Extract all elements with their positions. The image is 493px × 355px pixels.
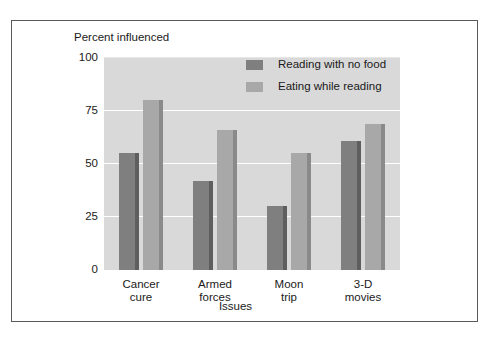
legend-swatch: [246, 60, 267, 73]
bar: [291, 153, 311, 270]
bar-side: [135, 153, 139, 270]
y-axis-tick-label: 25: [58, 210, 98, 222]
bar-side: [159, 100, 163, 270]
figure: Percent influenced 0255075100 Cancercure…: [0, 0, 493, 355]
bar-face: [143, 100, 159, 270]
bar: [217, 130, 237, 270]
bar-side: [233, 130, 237, 270]
x-axis-category-label-line: 3-D: [318, 278, 408, 291]
bar-side: [209, 181, 213, 270]
y-axis-tick-label: 100: [58, 51, 98, 63]
legend: Reading with no foodEating while reading: [246, 58, 396, 102]
bar: [365, 124, 385, 270]
bar: [267, 206, 287, 270]
bar-side: [357, 141, 361, 270]
y-axis-tick-label: 0: [58, 263, 98, 275]
bar-side: [381, 124, 385, 270]
legend-item: Reading with no food: [246, 58, 396, 77]
y-axis-title: Percent influenced: [74, 31, 169, 43]
bar-side: [283, 206, 287, 270]
x-axis-title-text: Issues: [219, 300, 252, 312]
bar: [193, 181, 213, 270]
legend-item: Eating while reading: [246, 80, 396, 99]
bar-face: [193, 181, 209, 270]
bar-face: [291, 153, 307, 270]
bar-face: [365, 124, 381, 270]
bar: [119, 153, 139, 270]
bar-face: [341, 141, 357, 270]
legend-swatch: [246, 82, 267, 95]
legend-label: Reading with no food: [278, 58, 386, 70]
x-axis-title: Issues: [0, 300, 493, 312]
bar: [341, 141, 361, 270]
bar: [143, 100, 163, 270]
y-axis-tick-label: 75: [58, 104, 98, 116]
bar-side: [307, 153, 311, 270]
legend-label: Eating while reading: [278, 80, 382, 92]
bar-face: [267, 206, 283, 270]
y-axis-tick-label: 50: [58, 157, 98, 169]
bar-face: [119, 153, 135, 270]
legend-swatch-face: [246, 60, 263, 70]
legend-swatch-face: [246, 82, 263, 92]
bar-face: [217, 130, 233, 270]
